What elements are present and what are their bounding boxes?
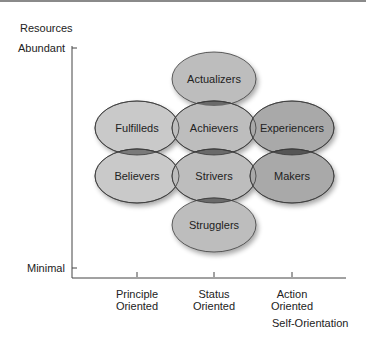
y-axis-bottom-label: Minimal [27, 262, 65, 275]
y-axis [72, 46, 77, 278]
label-believers: Believers [114, 170, 160, 182]
x-tick-label-line2: Oriented [257, 300, 327, 312]
y-axis-top-label: Abundant [18, 42, 65, 55]
label-experiencers: Experiencers [260, 122, 325, 134]
x-tick-label-action: Action Oriented [257, 288, 327, 312]
label-actualizers: Actualizers [187, 73, 241, 85]
label-fulfilleds: Fulfilleds [115, 122, 159, 134]
x-tick-label-line1: Action [257, 288, 327, 300]
y-axis-title: Resources [20, 22, 73, 35]
x-tick-label-line1: Principle [102, 288, 172, 300]
label-strugglers: Strugglers [189, 219, 240, 231]
label-makers: Makers [274, 170, 311, 182]
x-tick-label-status: Status Oriented [179, 288, 249, 312]
x-tick-label-line2: Oriented [179, 300, 249, 312]
x-axis-title: Self-Orientation [272, 317, 348, 330]
x-axis [72, 272, 346, 278]
label-achievers: Achievers [190, 122, 239, 134]
label-strivers: Strivers [195, 170, 233, 182]
x-tick-label-line2: Oriented [102, 300, 172, 312]
x-tick-label-line1: Status [179, 288, 249, 300]
x-tick-label-principle: Principle Oriented [102, 288, 172, 312]
